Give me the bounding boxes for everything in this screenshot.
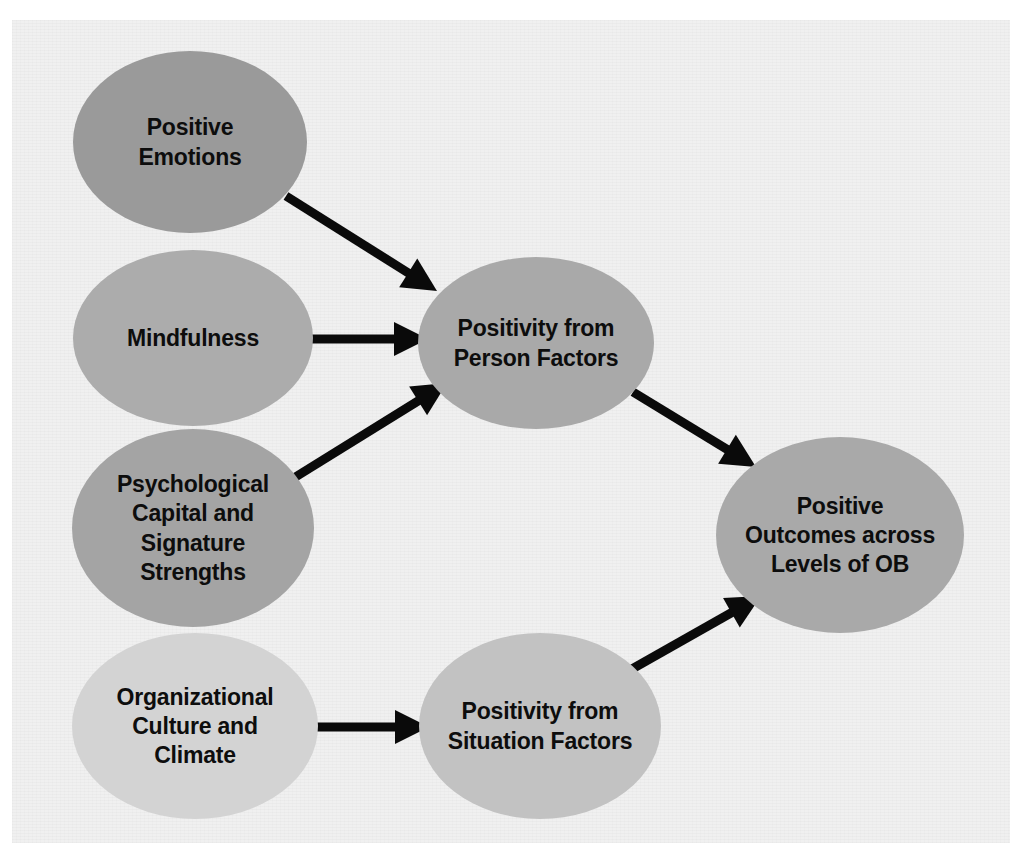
node-label-line: Positive [147, 114, 234, 140]
edge-organizational-culture-to-situation-factors [312, 710, 429, 744]
node-label-line: Situation Factors [448, 728, 632, 754]
edge-situation-factors-to-outcomes [632, 596, 761, 669]
diagram-svg: PositiveEmotionsMindfulnessPsychological… [0, 0, 1032, 863]
node-label-line: Levels of OB [771, 551, 909, 577]
nodes-layer: PositiveEmotionsMindfulnessPsychological… [72, 51, 964, 819]
node-label-line: Climate [154, 742, 236, 768]
edge-mindfulness-to-person-factors [311, 322, 428, 356]
edge-person-factors-to-outcomes [633, 392, 756, 467]
diagram-canvas: PositiveEmotionsMindfulnessPsychological… [0, 0, 1032, 863]
node-label-line: Signature [141, 530, 245, 556]
node-label-line: Person Factors [454, 345, 619, 371]
node-positive-emotions[interactable]: PositiveEmotions [73, 51, 307, 233]
node-label-line: Emotions [138, 144, 241, 170]
node-label-line: Outcomes across [745, 522, 935, 548]
node-label-line: Psychological [117, 471, 269, 497]
node-label-line: Mindfulness [127, 325, 259, 351]
node-label-mindfulness: Mindfulness [127, 325, 259, 351]
node-ellipse-positivity-from-person-factors[interactable] [418, 257, 654, 429]
node-label-line: Positive [797, 493, 884, 519]
node-positivity-from-situation-factors[interactable]: Positivity fromSituation Factors [419, 633, 661, 819]
node-label-line: Culture and [132, 713, 258, 739]
edge-positive-emotions-to-person-factors [286, 196, 437, 291]
edge-shaft [632, 611, 734, 669]
node-ellipse-positivity-from-situation-factors[interactable] [419, 633, 661, 819]
node-psychological-capital-and-signature-strengths[interactable]: PsychologicalCapital andSignatureStrengt… [72, 429, 314, 627]
node-ellipse-positive-emotions[interactable] [73, 51, 307, 233]
edge-shaft [289, 399, 421, 481]
node-positive-outcomes-across-levels-of-ob[interactable]: PositiveOutcomes acrossLevels of OB [716, 437, 964, 633]
node-positivity-from-person-factors[interactable]: Positivity fromPerson Factors [418, 257, 654, 429]
node-ellipse-psychological-capital-and-signature-strengths[interactable] [72, 429, 314, 627]
edge-psychological-capital-to-person-factors [289, 383, 447, 481]
node-label-line: Positivity from [458, 315, 615, 341]
node-label-line: Capital and [132, 500, 254, 526]
node-organizational-culture-and-climate[interactable]: OrganizationalCulture andClimate [72, 633, 318, 819]
node-label-line: Strengths [140, 559, 246, 585]
edge-shaft [286, 196, 411, 274]
edge-shaft [633, 392, 730, 451]
node-label-line: Organizational [117, 684, 274, 710]
node-mindfulness[interactable]: Mindfulness [73, 250, 313, 426]
node-label-line: Positivity from [462, 698, 619, 724]
